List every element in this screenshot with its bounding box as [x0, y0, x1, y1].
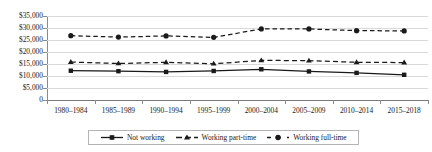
data-point-marker [354, 71, 358, 75]
x-axis-tick-mark [142, 100, 143, 104]
data-point-marker [163, 33, 168, 38]
data-point-marker [354, 28, 359, 33]
data-point-marker [116, 35, 121, 40]
chart-legend: Not workingWorking part-timeWorking full… [88, 130, 359, 145]
data-point-marker [259, 26, 264, 31]
line-chart: $35,000$30,000$25,000$20,000$15,000$10,0… [0, 0, 432, 152]
legend-item-working-part-time[interactable]: Working part-time [175, 133, 257, 142]
series-not-working [69, 67, 407, 77]
data-point-marker [211, 69, 215, 73]
y-axis-tick-label: 0 [0, 96, 43, 103]
data-point-marker [307, 69, 311, 73]
data-point-marker [402, 73, 406, 77]
data-point-marker [163, 59, 169, 64]
y-axis-tick-label: $10,000 [0, 72, 43, 79]
legend-label: Working part-time [202, 134, 257, 141]
x-axis-tick-mark [333, 100, 334, 104]
x-axis-tick-mark [190, 100, 191, 104]
y-axis-tick-label: $30,000 [0, 24, 43, 31]
x-axis-tick-mark [95, 100, 96, 104]
data-point-marker [259, 67, 263, 71]
legend-marker-triangle-icon [175, 133, 199, 142]
x-axis-tick-mark [428, 100, 429, 104]
series-working-part-time [68, 57, 407, 65]
y-axis-tick-label: $15,000 [0, 60, 43, 67]
x-axis-tick-mark [285, 100, 286, 104]
series-working-full-time [68, 26, 407, 40]
legend-item-not-working[interactable]: Not working [100, 133, 165, 142]
data-point-marker [306, 58, 312, 63]
y-axis-tick-label: $25,000 [0, 36, 43, 43]
data-point-marker [211, 35, 216, 40]
series-line [71, 69, 404, 75]
data-point-marker [116, 69, 120, 73]
legend-marker-square-icon [100, 133, 124, 142]
data-point-marker [68, 33, 73, 38]
data-point-marker [402, 28, 407, 33]
y-axis-tick-label: $5,000 [0, 84, 43, 91]
y-axis-tick-label: $20,000 [0, 48, 43, 55]
x-axis-tick-label: 2015–2018 [374, 107, 432, 114]
legend-item-working-full-time[interactable]: Working full-time [266, 133, 346, 142]
series-line [71, 60, 404, 63]
x-axis-tick-mark [380, 100, 381, 104]
y-axis-tick-label: $35,000 [0, 12, 43, 19]
data-point-marker [306, 26, 311, 31]
data-point-marker [68, 59, 74, 64]
x-axis-tick-mark [47, 100, 48, 104]
data-point-marker [164, 70, 168, 74]
legend-label: Working full-time [293, 134, 346, 141]
legend-label: Not working [127, 134, 165, 141]
legend-marker-circle-icon [266, 133, 290, 142]
data-series-layer [47, 16, 428, 100]
data-point-marker [69, 69, 73, 73]
x-axis-tick-mark [238, 100, 239, 104]
